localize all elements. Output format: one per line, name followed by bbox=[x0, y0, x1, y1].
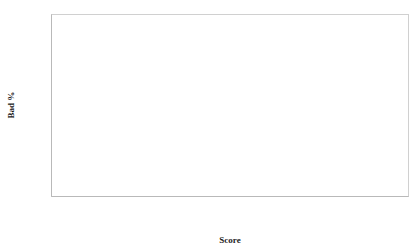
x-axis-title: Score bbox=[219, 235, 240, 245]
bad-rate-by-score-chart: Score Bad % bbox=[0, 0, 420, 252]
chart-background bbox=[0, 0, 420, 252]
chart-container: Score Bad % bbox=[0, 0, 420, 252]
y-axis-title: Bad % bbox=[6, 92, 16, 119]
